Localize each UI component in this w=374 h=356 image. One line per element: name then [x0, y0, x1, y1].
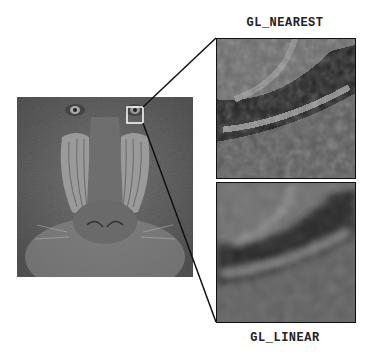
mandrill-image — [17, 97, 193, 277]
gl-linear-label: GL_LINEAR — [210, 331, 360, 345]
linear-zoom-panel — [216, 182, 356, 323]
gl-nearest-label: GL_NEAREST — [210, 16, 360, 30]
nearest-zoom-panel — [216, 38, 356, 179]
